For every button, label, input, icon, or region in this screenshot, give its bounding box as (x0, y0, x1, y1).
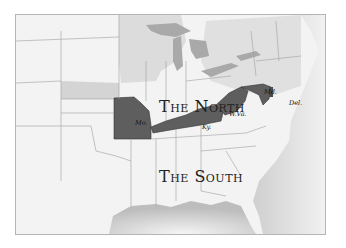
kansas-shade (61, 81, 119, 99)
state-label-west-virginia: W.Va. (229, 110, 247, 118)
map-frame: The North The South Mo. Ky. W.Va. Md. De… (15, 14, 326, 235)
state-label-maryland: Md. (264, 88, 277, 96)
state-label-missouri: Mo. (135, 119, 148, 127)
region-label-south: The South (159, 167, 243, 186)
state-label-kentucky: Ky. (202, 123, 211, 131)
state-label-delaware: Del. (289, 99, 302, 107)
us-map (16, 15, 325, 234)
